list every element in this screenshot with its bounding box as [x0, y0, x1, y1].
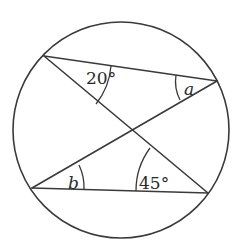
angle-label-a: a [184, 79, 194, 99]
angle-label-45: 45° [139, 173, 169, 193]
angle-arc-a [176, 75, 180, 100]
circle [13, 22, 229, 238]
angle-label-b: b [68, 173, 79, 193]
circle-diagram: 20° a b 45° [0, 0, 240, 249]
angle-label-20: 20° [86, 68, 116, 88]
angle-arc-b [79, 165, 84, 189]
chord-cd [32, 188, 208, 193]
